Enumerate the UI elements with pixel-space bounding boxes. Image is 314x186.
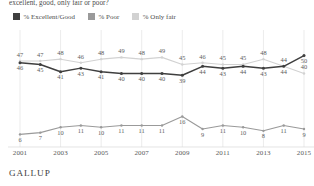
legend-only-fair-swatch: [132, 13, 139, 20]
legend-excellent-good-label: % Excellent/Good: [24, 13, 76, 20]
value-label-only-fair-2011: 45: [220, 54, 227, 61]
value-label-excellent-good-2011: 43: [220, 70, 227, 77]
legend-excellent-good[interactable]: % Excellent/Good: [13, 13, 75, 20]
value-label-only-fair-2005: 48: [98, 49, 105, 56]
x-tick-2003: 2003: [53, 149, 67, 157]
value-label-only-fair-2001: 47: [17, 51, 24, 58]
legend-only-fair[interactable]: % Only fair: [132, 13, 176, 20]
value-label-poor-2002: 7: [39, 134, 43, 141]
datapoint-only-fair-2010[interactable]: [201, 62, 203, 64]
value-label-only-fair-2007: 48: [138, 49, 145, 56]
value-label-excellent-good-2002: 45: [37, 66, 44, 73]
value-label-excellent-good-2015: 50: [301, 57, 308, 64]
legend-only-fair-label: % Only fair: [143, 13, 176, 20]
legend-poor-label: % Poor: [99, 13, 120, 20]
legend-poor[interactable]: % Poor: [88, 13, 119, 20]
legend-poor-swatch: [88, 13, 95, 20]
plot-area: 4747484648494849454645454844406710111011…: [0, 30, 314, 148]
x-tick-2009: 2009: [175, 149, 189, 157]
value-label-excellent-good-2010: 44: [199, 68, 206, 75]
value-label-only-fair-2002: 47: [37, 51, 44, 58]
value-label-excellent-good-2007: 40: [138, 75, 145, 82]
value-label-poor-2007: 11: [139, 127, 145, 134]
datapoint-only-fair-2009[interactable]: [181, 63, 183, 65]
value-label-excellent-good-2008: 40: [159, 75, 166, 82]
value-label-poor-2006: 11: [118, 127, 124, 134]
chart-legend: % Excellent/Good% Poor% Only fair: [13, 13, 189, 20]
datapoint-only-fair-2007[interactable]: [141, 58, 143, 60]
datapoint-only-fair-2013[interactable]: [262, 58, 264, 60]
value-label-poor-2013: 8: [262, 132, 265, 139]
value-label-excellent-good-2003: 41: [57, 73, 64, 80]
value-label-poor-2010: 9: [201, 131, 204, 138]
value-label-only-fair-2006: 49: [118, 47, 125, 54]
datapoint-only-fair-2011[interactable]: [222, 63, 224, 65]
value-label-excellent-good-2005: 41: [98, 73, 105, 80]
value-label-poor-2014: 11: [281, 127, 287, 134]
x-axis: 20012003200520072009201120132015: [0, 149, 314, 163]
datapoint-only-fair-2002[interactable]: [39, 60, 41, 62]
value-label-poor-2004: 11: [78, 127, 84, 134]
value-label-only-fair-2013: 48: [260, 49, 267, 56]
value-label-excellent-good-2012: 44: [240, 68, 247, 75]
x-tick-2011: 2011: [216, 149, 230, 157]
legend-excellent-good-swatch: [13, 13, 20, 20]
value-label-poor-2008: 11: [159, 127, 165, 134]
x-tick-2001: 2001: [13, 149, 27, 157]
value-label-only-fair-2015: 40: [301, 63, 308, 70]
datapoint-only-fair-2004[interactable]: [80, 62, 82, 64]
value-label-excellent-good-2004: 43: [78, 70, 85, 77]
gallup-logo: GALLUP: [9, 168, 51, 178]
datapoint-only-fair-2008[interactable]: [161, 56, 163, 58]
value-label-poor-2012: 10: [240, 129, 247, 136]
value-label-only-fair-2003: 48: [57, 49, 64, 56]
value-label-poor-2001: 6: [18, 136, 21, 143]
value-label-only-fair-2010: 46: [199, 53, 206, 60]
x-tick-2013: 2013: [256, 149, 270, 157]
value-label-excellent-good-2013: 43: [260, 70, 267, 77]
value-label-only-fair-2004: 46: [78, 53, 85, 60]
value-label-only-fair-2009: 45: [179, 54, 186, 61]
datapoint-only-fair-2005[interactable]: [100, 58, 102, 60]
value-label-excellent-good-2009: 39: [179, 77, 186, 84]
value-label-poor-2005: 10: [98, 129, 105, 136]
chart-svg: 4747484648494849454645454844406710111011…: [0, 30, 314, 148]
datapoint-only-fair-2006[interactable]: [120, 56, 122, 58]
value-label-excellent-good-2014: 44: [280, 68, 287, 75]
value-label-poor-2003: 10: [57, 129, 64, 136]
datapoint-only-fair-2003[interactable]: [59, 58, 61, 60]
value-label-only-fair-2014: 44: [280, 56, 287, 63]
value-label-poor-2015: 9: [302, 131, 305, 138]
gallup-line-chart: excellent, good, only fair or poor? % Ex…: [0, 0, 314, 186]
value-label-excellent-good-2001: 46: [17, 64, 24, 71]
datapoint-only-fair-2015[interactable]: [303, 72, 305, 74]
chart-title: excellent, good, only fair or poor?: [9, 0, 309, 8]
x-tick-2005: 2005: [94, 149, 108, 157]
value-label-only-fair-2012: 45: [240, 54, 247, 61]
value-label-poor-2009: 16: [179, 118, 186, 125]
x-tick-2015: 2015: [297, 149, 311, 157]
value-label-excellent-good-2006: 40: [118, 75, 125, 82]
x-tick-2007: 2007: [135, 149, 149, 157]
value-label-poor-2011: 11: [220, 127, 226, 134]
value-label-only-fair-2008: 49: [159, 47, 166, 54]
